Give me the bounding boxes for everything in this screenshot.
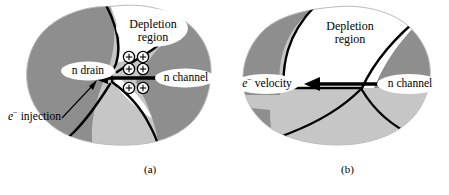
caption-b: (b)	[341, 163, 354, 175]
caption-b-text: (b)	[341, 163, 354, 175]
charge-symbol-plus	[137, 63, 148, 74]
charge-symbol-plus	[123, 51, 134, 62]
caption-a: (a)	[144, 163, 156, 175]
panel-a-drawing	[0, 0, 225, 195]
charge-symbol-plus	[123, 82, 134, 93]
charge-symbol-plus	[123, 63, 134, 74]
panel-a-body	[0, 0, 225, 195]
charge-symbol-plus	[137, 82, 148, 93]
panel-b-drawing	[224, 0, 449, 195]
figure-container: Depletion region n drain n channel e− in…	[0, 0, 449, 195]
panel-b: Depletion region e− velocity n channel (…	[224, 0, 449, 195]
caption-a-text: (a)	[144, 163, 156, 175]
panel-a: Depletion region n drain n channel e− in…	[0, 0, 225, 195]
charge-symbol-plus	[137, 51, 148, 62]
